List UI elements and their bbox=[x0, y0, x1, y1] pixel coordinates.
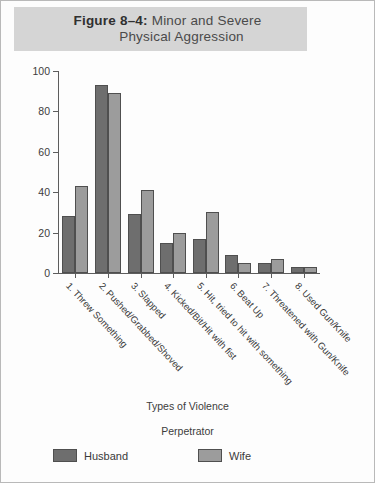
x-axis-tick bbox=[238, 273, 239, 278]
bar-husband bbox=[193, 239, 206, 273]
bar-wife bbox=[75, 186, 88, 273]
figure-title-line-1: Figure 8–4: Minor and Severe bbox=[60, 13, 262, 29]
x-axis-tick bbox=[108, 273, 109, 278]
bar-wife bbox=[108, 93, 121, 273]
bar-group bbox=[59, 71, 92, 273]
bar-group bbox=[190, 71, 223, 273]
bar-wife bbox=[206, 212, 219, 273]
y-axis-tick-label: 0 bbox=[44, 267, 50, 279]
figure-title-line-2: Physical Aggression bbox=[77, 29, 244, 45]
bar-wife bbox=[304, 267, 317, 273]
bar-wife bbox=[238, 263, 251, 273]
x-axis-tick bbox=[206, 273, 207, 278]
figure-number: Figure 8–4: bbox=[74, 13, 148, 28]
bar-groups bbox=[59, 71, 320, 273]
y-axis-tick bbox=[53, 192, 58, 193]
y-axis-tick bbox=[53, 111, 58, 112]
y-axis-tick bbox=[53, 233, 58, 234]
bar-husband bbox=[95, 85, 108, 273]
legend-swatch bbox=[53, 449, 77, 462]
bar-group bbox=[255, 71, 288, 273]
x-axis-category-label: 1. Threw Something bbox=[64, 280, 130, 350]
bar-husband bbox=[128, 214, 141, 273]
bar-wife bbox=[271, 259, 284, 273]
y-axis-tick bbox=[53, 273, 58, 274]
y-axis-tick-label: 80 bbox=[38, 105, 50, 117]
x-axis-category-label: 8. Used Gun/Knife bbox=[293, 280, 354, 344]
bar-group bbox=[287, 71, 320, 273]
bar-group bbox=[124, 71, 157, 273]
bar-husband bbox=[291, 267, 304, 273]
y-axis-tick bbox=[53, 71, 58, 72]
bar-wife bbox=[141, 190, 154, 273]
bar-husband bbox=[62, 216, 75, 273]
y-axis-tick-label: 100 bbox=[32, 65, 50, 77]
y-axis-tick-label: 60 bbox=[38, 146, 50, 158]
bar-husband bbox=[258, 263, 271, 273]
legend-swatch bbox=[198, 449, 222, 462]
y-axis-tick bbox=[53, 152, 58, 153]
x-axis-tick bbox=[173, 273, 174, 278]
bar-wife bbox=[173, 233, 186, 273]
bar-husband bbox=[160, 243, 173, 273]
figure-page: Figure 8–4: Minor and Severe Physical Ag… bbox=[0, 0, 375, 483]
bar-husband bbox=[225, 255, 238, 273]
x-axis-tick bbox=[304, 273, 305, 278]
legend-item-wife: Wife bbox=[198, 449, 251, 462]
x-axis-tick bbox=[141, 273, 142, 278]
figure-title-banner: Figure 8–4: Minor and Severe Physical Ag… bbox=[14, 7, 307, 51]
chart-plot-area: 020406080100 bbox=[58, 71, 320, 274]
y-axis-tick-label: 40 bbox=[38, 186, 50, 198]
bar-group bbox=[92, 71, 125, 273]
bar-group bbox=[222, 71, 255, 273]
y-axis-tick-label: 20 bbox=[38, 227, 50, 239]
chart-legend: HusbandWife bbox=[53, 449, 333, 469]
bar-group bbox=[157, 71, 190, 273]
figure-title-text-1: Minor and Severe bbox=[152, 13, 262, 28]
x-axis-tick bbox=[75, 273, 76, 278]
legend-label: Husband bbox=[84, 450, 128, 462]
x-axis-line bbox=[58, 273, 320, 274]
legend-title: Perpetrator bbox=[1, 425, 374, 437]
x-axis-title: Types of Violence bbox=[1, 400, 374, 412]
x-axis-tick bbox=[271, 273, 272, 278]
legend-item-husband: Husband bbox=[53, 449, 128, 462]
legend-label: Wife bbox=[229, 450, 251, 462]
